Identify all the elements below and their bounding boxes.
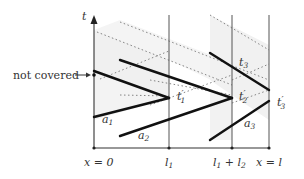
svg-text:a3: a3 <box>244 117 256 131</box>
label-t3-prime: t′3 <box>277 95 285 111</box>
svg-text:t′3: t′3 <box>277 95 285 111</box>
not-covered-label: not covered <box>13 69 79 82</box>
svg-text:a1: a1 <box>102 113 113 127</box>
label-a3: a3 <box>244 117 256 131</box>
svg-text:l1: l1 <box>165 156 173 170</box>
label-a1: a1 <box>102 113 113 127</box>
label-t1-prime: t′1 <box>177 89 185 105</box>
svg-text:l1 + l2: l1 + l2 <box>213 156 246 170</box>
svg-text:t′1: t′1 <box>177 89 185 105</box>
shaded-regions <box>94 15 269 140</box>
not-covered-point <box>92 73 96 77</box>
x-tick-0: x = 0 <box>84 156 113 169</box>
svg-text:a2: a2 <box>138 129 150 143</box>
x-tick-l1-plus-l2: l1 + l2 <box>213 156 246 170</box>
characteristics-diagram: not covered t t′1 t′2 t′3 t3 a1 a2 a3 x … <box>0 0 304 179</box>
x-tick-l: x = l <box>256 156 282 169</box>
x-tick-l1: l1 <box>165 156 173 170</box>
t-axis-label: t <box>82 10 87 23</box>
label-a2: a2 <box>138 129 150 143</box>
